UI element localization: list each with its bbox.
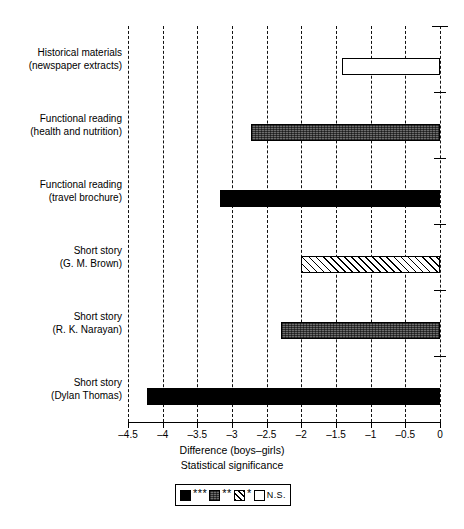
category-label-short-story-narayan: Short story (R. K. Narayan) <box>2 310 122 336</box>
category-label-line2: (travel brochure) <box>2 191 122 204</box>
gridline--4 <box>163 26 164 422</box>
category-label-line1: Short story <box>2 376 122 389</box>
legend-label-sig2: ** <box>222 490 231 496</box>
legend-label-sig1: * <box>247 490 252 496</box>
legend-title: Statistical significance <box>0 459 464 471</box>
x-tick--3.5 <box>197 422 198 428</box>
x-tick--3 <box>232 422 233 428</box>
legend-item-sig3: *** <box>180 490 207 501</box>
category-label-short-story-brown: Short story (G. M. Brown) <box>2 244 122 270</box>
x-tick--2 <box>301 422 302 428</box>
zero-axis-tick-5 <box>434 356 446 357</box>
category-label-line1: Short story <box>2 244 122 257</box>
category-label-short-story-thomas: Short story (Dylan Thomas) <box>2 376 122 402</box>
gridline--4.5 <box>128 26 129 422</box>
category-label-line2: (health and nutrition) <box>2 125 122 138</box>
x-ticklabel-0: 0 <box>420 429 460 441</box>
bar-short-story-narayan <box>281 322 441 339</box>
legend-label-ns: N.S. <box>267 491 286 500</box>
x-tick--1.5 <box>336 422 337 428</box>
legend: *** ** * N.S. <box>175 484 291 506</box>
legend-item-sig2: ** <box>209 490 231 501</box>
bar-historical-materials <box>342 58 440 75</box>
legend-item-ns: N.S. <box>254 490 286 501</box>
x-tick--1 <box>371 422 372 428</box>
x-tick--2.5 <box>267 422 268 428</box>
legend-item-sig1: * <box>234 490 252 501</box>
category-label-historical-materials: Historical materials (newspaper extracts… <box>2 46 122 72</box>
legend-swatch-sig3 <box>180 490 191 501</box>
bar-short-story-brown <box>301 256 440 273</box>
category-label-line2: (newspaper extracts) <box>2 59 122 72</box>
x-tick--0.5 <box>405 422 406 428</box>
zero-axis-top-cap <box>432 26 448 27</box>
category-label-line2: (R. K. Narayan) <box>2 323 122 336</box>
zero-axis-tick-1 <box>434 92 446 93</box>
category-label-line1: Short story <box>2 310 122 323</box>
category-label-line2: (Dylan Thomas) <box>2 389 122 402</box>
category-label-functional-reading-travel: Functional reading (travel brochure) <box>2 178 122 204</box>
zero-axis-tick-4 <box>434 290 446 291</box>
gridline--2 <box>301 26 302 422</box>
x-tick--4.5 <box>128 422 129 428</box>
bar-short-story-thomas <box>147 388 440 405</box>
bar-functional-reading-travel <box>220 190 440 207</box>
category-label-line1: Historical materials <box>2 46 122 59</box>
gridline--1 <box>371 26 372 422</box>
category-label-line1: Functional reading <box>2 178 122 191</box>
legend-swatch-ns <box>254 490 265 501</box>
plot-area <box>128 26 440 422</box>
zero-axis-tick-3 <box>434 224 446 225</box>
bar-functional-reading-health <box>251 124 440 141</box>
legend-swatch-sig1 <box>234 490 245 501</box>
legend-swatch-sig2 <box>209 490 220 501</box>
chart-figure: –4.5 –4 –3.5 –3 –2.5 –2 –1.5 –1 –0.5 0 H… <box>0 0 464 529</box>
zero-axis-tick-2 <box>434 158 446 159</box>
x-axis-line <box>128 422 441 423</box>
x-axis-title: Difference (boys–girls) <box>0 444 464 456</box>
gridline--1.5 <box>336 26 337 422</box>
gridline--3.5 <box>197 26 198 422</box>
category-label-functional-reading-health: Functional reading (health and nutrition… <box>2 112 122 138</box>
gridline--0.5 <box>405 26 406 422</box>
x-tick--4 <box>163 422 164 428</box>
category-label-line1: Functional reading <box>2 112 122 125</box>
gridline--2.5 <box>267 26 268 422</box>
category-label-line2: (G. M. Brown) <box>2 257 122 270</box>
legend-label-sig3: *** <box>193 490 207 496</box>
gridline--3 <box>232 26 233 422</box>
x-tick-0 <box>440 422 441 428</box>
